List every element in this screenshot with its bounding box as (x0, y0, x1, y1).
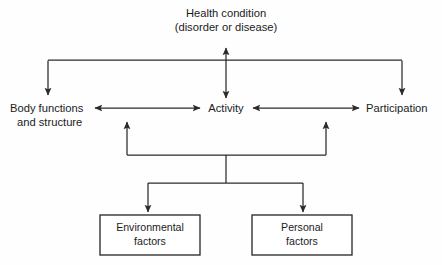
activity-label: Activity (208, 102, 244, 114)
node-activity: Activity (208, 102, 244, 114)
node-health-condition: Health condition (disorder or disease) (175, 7, 278, 33)
environmental-factors-label-line2: factors (134, 235, 166, 247)
box-personal-factors: Personal factors (252, 215, 352, 255)
contextual-factors-bracket (127, 122, 326, 212)
personal-factors-label-line2: factors (286, 235, 318, 247)
health-condition-label-line1: Health condition (186, 7, 266, 19)
box-environmental-factors: Environmental factors (100, 215, 200, 255)
node-participation: Participation (366, 102, 428, 114)
environmental-factors-label-line1: Environmental (116, 221, 184, 233)
health-condition-label-line2: (disorder or disease) (175, 21, 278, 33)
body-functions-label-line1: Body functions (10, 102, 84, 114)
icf-diagram-page: Health condition (disorder or disease) B… (0, 0, 442, 265)
icf-diagram-canvas: Health condition (disorder or disease) B… (0, 0, 442, 265)
participation-label: Participation (366, 102, 428, 114)
body-functions-label-line2: and structure (17, 116, 82, 128)
personal-factors-label-line1: Personal (281, 221, 323, 233)
node-body-functions-and-structure: Body functions and structure (10, 102, 84, 128)
top-rail-group (48, 60, 402, 95)
